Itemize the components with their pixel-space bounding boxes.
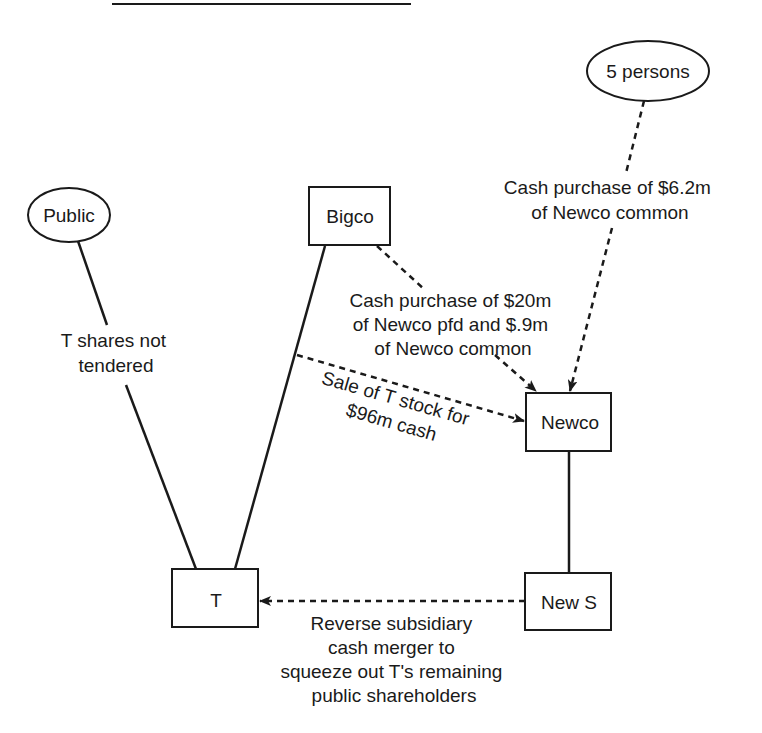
edge-label-five-persons-newco: Cash purchase of $6.2m of Newco common (504, 177, 716, 223)
edge-label-public-t: T shares not tendered (61, 330, 172, 376)
edge-sale-to-newco: Sale of T stock for $96m cash (297, 355, 524, 454)
node-label: T (210, 590, 222, 611)
node-five-persons: 5 persons (587, 41, 709, 101)
node-label: Public (43, 205, 95, 226)
edge-label-bigco-newco: Cash purchase of $20m of Newco pfd and $… (349, 290, 556, 359)
node-t: T (172, 569, 258, 627)
edge-bigco-to-newco: Cash purchase of $20m of Newco pfd and $… (349, 246, 556, 391)
transaction-diagram: T shares not tendered Cash purchase of $… (0, 0, 762, 733)
node-bigco: Bigco (309, 187, 390, 245)
node-label: New S (541, 592, 597, 613)
edge-line-segment (377, 246, 425, 290)
edge-merger-new-s-to-t: Reverse subsidiary cash merger to squeez… (260, 601, 525, 706)
edge-label-merger: Reverse subsidiary cash merger to squeez… (280, 613, 507, 706)
edge-line-segment (570, 228, 612, 391)
node-label: Newco (541, 412, 599, 433)
node-label: Bigco (326, 206, 374, 227)
node-public: Public (28, 188, 110, 242)
node-label: 5 persons (606, 61, 689, 82)
edge-line-segment (126, 385, 196, 569)
edge-line-segment (495, 355, 536, 391)
edge-five-persons-to-newco: Cash purchase of $6.2m of Newco common (504, 101, 716, 391)
edge-label-sale: Sale of T stock for $96m cash (313, 367, 477, 454)
edge-line-segment (626, 101, 644, 173)
edge-bigco-to-t (235, 246, 325, 569)
edge-line-segment (78, 241, 107, 325)
edge-public-to-t: T shares not tendered (61, 241, 196, 569)
node-newco: Newco (526, 393, 611, 451)
node-new-s: New S (525, 573, 611, 630)
